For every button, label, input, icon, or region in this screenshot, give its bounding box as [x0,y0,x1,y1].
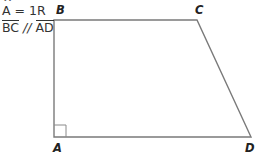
trapezoid-abcd [54,20,251,137]
vertex-label-b: B [56,3,65,17]
segment-ad: AD [36,20,54,35]
angle-a: ^ A [2,2,11,19]
right-angle-marker [54,125,66,137]
angle-value: = 1R [15,3,46,18]
segment-bc: BC [2,20,19,35]
vertex-label-c: C [195,3,203,17]
vertex-label-d: D [245,141,255,155]
parallel-symbol: // [23,20,31,35]
parallel-condition: BC // AD [2,19,54,36]
angle-condition: ^ A = 1R [2,2,54,19]
vertex-label-a: A [53,141,62,155]
hat-symbol: ^ [3,0,12,11]
given-conditions: ^ A = 1R BC // AD [2,2,54,36]
